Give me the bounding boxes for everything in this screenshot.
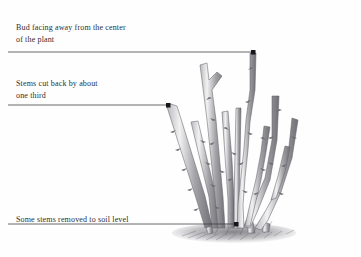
stem-tall-right-bud xyxy=(237,53,256,228)
stem-left-outer xyxy=(167,104,212,228)
annotation-bud-facing-away: Bud facing away from the center of the p… xyxy=(16,22,206,45)
stem-centre-slim xyxy=(234,108,241,228)
pruning-illustration-figure: Bud facing away from the center of the p… xyxy=(0,0,361,257)
stem-right-outer xyxy=(255,118,298,230)
stem-right-short xyxy=(245,126,270,226)
leader-dot-stems xyxy=(166,103,171,108)
annotation-stems-removed-soil-level: Some stems removed to soil level xyxy=(16,214,231,226)
shrub-stems xyxy=(167,53,298,230)
buds-and-thorns xyxy=(170,67,297,211)
stem-left-inner xyxy=(191,121,219,228)
stem-right-mid xyxy=(244,96,279,228)
leader-dot-bud xyxy=(251,50,256,55)
leader-dot-soil xyxy=(234,222,239,227)
stem-centre-short xyxy=(222,111,234,228)
annotation-stems-cut-back: Stems cut back by about one third xyxy=(16,78,186,101)
leader-endpoint-dots xyxy=(166,50,256,227)
stem-forked-tall xyxy=(200,63,225,228)
stem-right-stub xyxy=(271,146,290,200)
